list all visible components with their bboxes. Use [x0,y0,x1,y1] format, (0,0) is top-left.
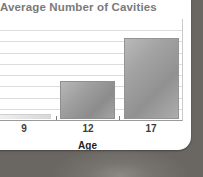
bar-age-17 [124,38,179,119]
plot-area [0,19,183,121]
x-tick-label-12: 12 [68,123,108,134]
x-axis-tick [119,116,120,120]
x-axis-tick [56,116,57,120]
x-tick-label-17: 17 [131,123,171,134]
bar-series [0,19,182,120]
chart-title: Average Number of Cavities [0,0,191,15]
bar-age-9 [0,114,51,119]
x-tick-label-9: 9 [4,123,44,134]
bar-age-12 [60,81,115,119]
x-axis-title: Age [0,140,183,150]
chart-card: Average Number of Cavities 91217 Age [0,0,191,150]
